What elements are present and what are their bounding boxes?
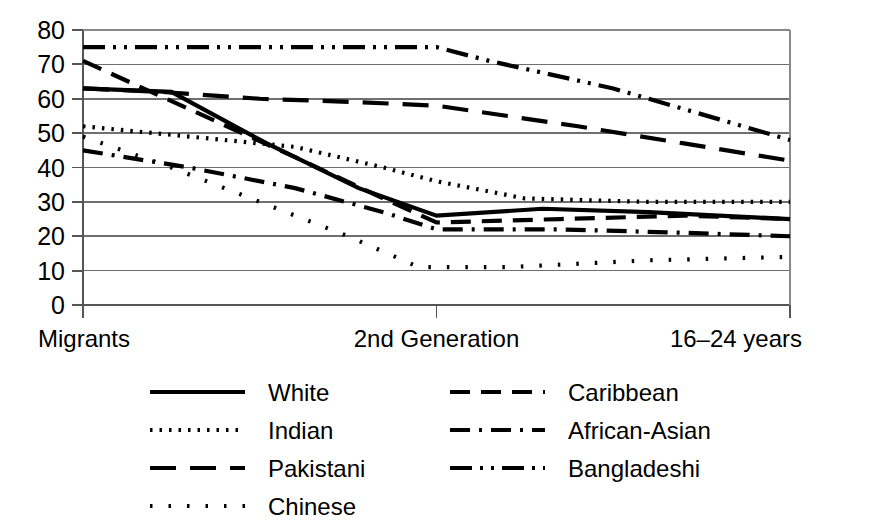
y-tick-label: 10: [37, 257, 65, 285]
gridlines: [83, 30, 790, 305]
y-tick-label: 40: [37, 154, 65, 182]
y-tick-label: 80: [37, 16, 65, 44]
line-chart: 01020304050607080 Migrants2nd Generation…: [0, 0, 872, 526]
y-tick-label: 50: [37, 119, 65, 147]
data-series-group: [83, 47, 790, 267]
y-tick-label: 0: [51, 291, 65, 319]
legend-label-african-asian: African-Asian: [568, 417, 711, 444]
chart-figure: 01020304050607080 Migrants2nd Generation…: [0, 0, 872, 526]
x-axis-category-labels: Migrants2nd Generation16–24 years: [38, 325, 802, 352]
y-tick-label: 30: [37, 188, 65, 216]
x-axis-ticks: [83, 305, 790, 318]
legend-label-chinese: Chinese: [268, 493, 356, 520]
x-category-label-0: Migrants: [38, 325, 130, 352]
legend-label-pakistani: Pakistani: [268, 455, 365, 482]
legend-label-bangladeshi: Bangladeshi: [568, 455, 700, 482]
legend-label-caribbean: Caribbean: [568, 379, 679, 406]
series-line-white: [83, 88, 790, 219]
x-category-label-1: 2nd Generation: [354, 325, 519, 352]
series-line-indian: [83, 126, 790, 202]
legend-label-indian: Indian: [268, 417, 333, 444]
legend-label-white: White: [268, 379, 329, 406]
y-tick-label: 20: [37, 222, 65, 250]
y-tick-label: 70: [37, 50, 65, 78]
chart-legend: WhiteIndianPakistaniChineseCaribbeanAfri…: [150, 379, 711, 520]
y-axis-tick-labels: 01020304050607080: [37, 16, 83, 319]
y-tick-label: 60: [37, 85, 65, 113]
series-line-bangladeshi: [83, 47, 790, 140]
x-category-label-2: 16–24 years: [670, 325, 802, 352]
